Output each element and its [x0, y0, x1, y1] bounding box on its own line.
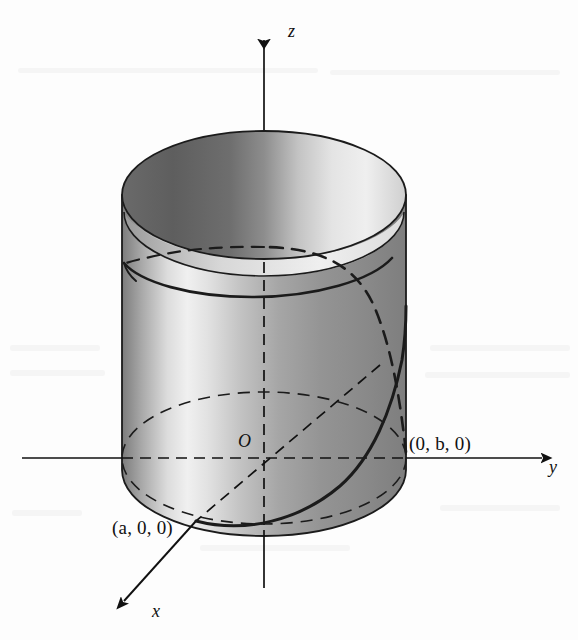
geometry-drawing [0, 0, 578, 640]
z-axis-label: z [288, 22, 295, 40]
y-axis-label: y [549, 458, 557, 476]
origin-label: O [238, 432, 251, 450]
point-a-label: (a, 0, 0) [112, 518, 173, 537]
x-axis-label: x [152, 602, 160, 620]
figure-container: z y x O (0, b, 0) (a, 0, 0) [0, 0, 578, 640]
point-b-label: (0, b, 0) [409, 434, 471, 453]
